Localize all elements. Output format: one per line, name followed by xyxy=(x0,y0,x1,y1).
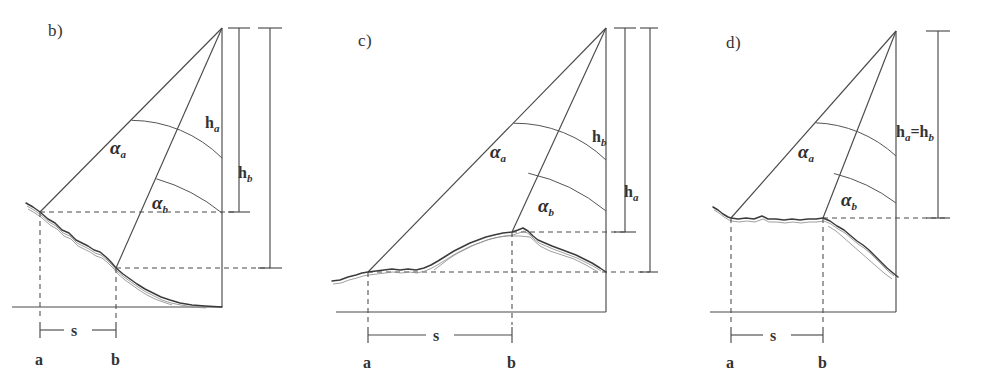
panel-d: d) αa αb ha=hb xyxy=(658,0,988,377)
point-label-b: b xyxy=(507,354,516,371)
sight-ray-to-a xyxy=(368,28,606,272)
angle-label-alpha-a: αa xyxy=(490,141,507,164)
point-label-b: b xyxy=(818,354,827,371)
panel-label-d: d) xyxy=(726,33,741,52)
point-label-b: b xyxy=(111,351,120,368)
angle-label-alpha-a: αa xyxy=(798,141,815,164)
sight-ray-to-a xyxy=(40,28,222,212)
figure-three-panel-slope-geometry: b) αa αb ha hb xyxy=(0,0,988,377)
panel-label-c: c) xyxy=(358,31,372,50)
baseline-label-s: s xyxy=(71,322,77,339)
point-label-a: a xyxy=(35,351,43,368)
terrain-hatch2-d xyxy=(828,226,892,279)
height-label-hb: hb xyxy=(238,164,253,184)
height-label-ha: ha xyxy=(205,114,220,134)
terrain-profile-c xyxy=(332,228,606,281)
angle-label-alpha-a: αa xyxy=(110,137,127,160)
sight-ray-to-a xyxy=(731,31,896,218)
baseline-label-s: s xyxy=(433,327,439,344)
panel-b: b) αa αb ha hb xyxy=(0,0,330,377)
angle-arc-alpha-a xyxy=(816,123,896,156)
height-label-hb: hb xyxy=(592,128,607,148)
sight-ray-to-b xyxy=(116,28,222,268)
terrain-hatch2-b xyxy=(28,209,172,305)
angle-label-alpha-b: αb xyxy=(841,189,858,212)
height-label-ha-equals-hb: ha=hb xyxy=(896,123,934,143)
terrain-profile-b xyxy=(26,203,222,307)
panel-label-b: b) xyxy=(48,21,63,40)
angle-label-alpha-b: αb xyxy=(538,195,555,218)
baseline-label-s: s xyxy=(770,327,776,344)
terrain-hatch-b xyxy=(27,206,206,308)
panel-c: c) αa αb hb ha xyxy=(330,0,660,377)
height-label-ha: ha xyxy=(624,183,639,203)
point-label-a: a xyxy=(363,354,371,371)
point-label-a: a xyxy=(726,354,734,371)
terrain-hatch-c xyxy=(333,231,601,284)
